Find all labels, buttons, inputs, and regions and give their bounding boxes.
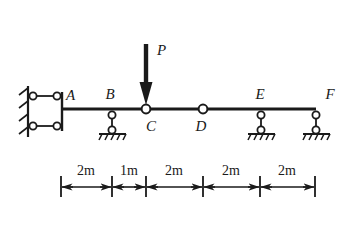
pin-circle xyxy=(53,92,60,99)
node-label-d: D xyxy=(195,118,207,134)
node-label-a: A xyxy=(65,87,76,103)
dimension-segment: 2m xyxy=(147,163,202,187)
dimension-chain: 2m 1m 2m 2m xyxy=(61,163,315,197)
dimension-label: 2m xyxy=(77,163,95,178)
pin-circle-bottom xyxy=(257,126,264,133)
wall-hatching xyxy=(19,88,28,134)
hinge-c xyxy=(142,105,151,114)
link-support-f xyxy=(303,111,330,140)
beam-diagram-figure: A B C D E F P 2m xyxy=(0,0,351,225)
dimension-label: 2m xyxy=(278,163,296,178)
hinge-d xyxy=(199,105,208,114)
pin-circle-bottom xyxy=(312,126,319,133)
dimension-label: 1m xyxy=(120,163,138,178)
dimension-label: 2m xyxy=(222,163,240,178)
dimension-segment: 1m xyxy=(113,163,145,187)
wall-link-upper xyxy=(29,92,60,99)
dimension-segment: 2m xyxy=(204,163,259,187)
node-label-c: C xyxy=(146,118,157,134)
arrow-head xyxy=(140,82,153,105)
pin-circle-bottom xyxy=(108,126,115,133)
node-label-b: B xyxy=(105,86,114,102)
pin-circle xyxy=(29,92,36,99)
load-arrow-p xyxy=(140,44,153,105)
link-support-e xyxy=(248,111,275,140)
wall-support-a xyxy=(19,86,62,137)
diagram-canvas: A B C D E F P 2m xyxy=(0,0,351,225)
pin-circle xyxy=(29,122,36,129)
dimension-label: 2m xyxy=(165,163,183,178)
load-label-p: P xyxy=(156,42,166,58)
pin-circle-top xyxy=(108,111,115,118)
link-support-b xyxy=(99,111,126,140)
pin-circle xyxy=(53,122,60,129)
wall-link-lower xyxy=(29,122,60,129)
node-label-e: E xyxy=(254,86,264,102)
dimension-segment: 2m xyxy=(62,163,111,187)
dimension-segment: 2m xyxy=(261,163,314,187)
node-label-f: F xyxy=(324,86,335,102)
pin-circle-top xyxy=(257,111,264,118)
pin-circle-top xyxy=(312,111,319,118)
